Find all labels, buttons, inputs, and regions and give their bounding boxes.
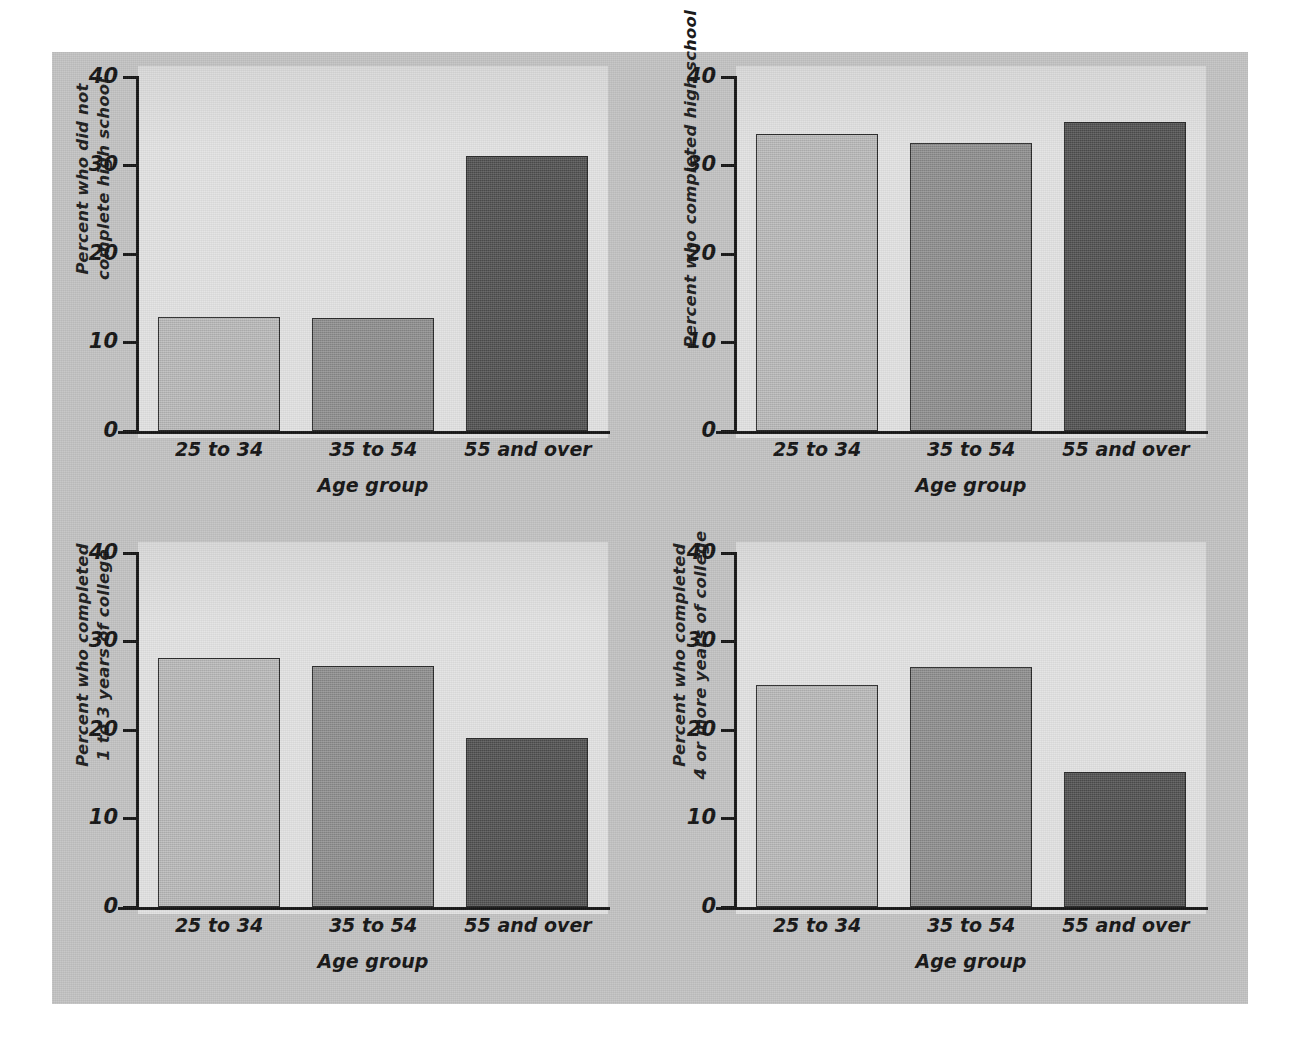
bar-25-to-34[interactable] [756, 134, 878, 431]
chart-grid: Percent who did not complete high school… [52, 52, 1248, 1004]
x-category-label: 25 to 34 [742, 916, 892, 935]
y-tick-mark [721, 164, 734, 167]
y-tick-mark [123, 341, 136, 344]
y-tick-mark [721, 729, 734, 732]
y-tick-mark [721, 552, 734, 555]
y-tick-mark [721, 430, 734, 433]
y-tick-mark [721, 341, 734, 344]
bar-35-to-54[interactable] [910, 143, 1032, 431]
y-tick-label: 0 [701, 896, 716, 917]
bar-fill [911, 668, 1031, 907]
y-tick-mark [123, 729, 136, 732]
bar-25-to-34[interactable] [158, 658, 280, 907]
y-tick-label: 0 [701, 420, 716, 441]
bar-group [734, 76, 1208, 431]
y-tick-label: 30 [89, 630, 118, 651]
y-tick-mark [123, 640, 136, 643]
bar-group [136, 76, 610, 431]
x-category-label: 35 to 54 [298, 440, 448, 459]
x-category-label: 55 and over [448, 916, 608, 935]
y-tick-mark [123, 552, 136, 555]
bar-35-to-54[interactable] [312, 318, 434, 431]
bar-fill [757, 135, 877, 430]
bar-fill [159, 318, 279, 430]
y-tick-mark [123, 430, 136, 433]
y-tick-mark [721, 906, 734, 909]
x-category-label: 55 and over [448, 440, 608, 459]
y-tick-label: 0 [103, 420, 118, 441]
x-axis-category-labels: 25 to 34 35 to 54 55 and over [136, 916, 610, 946]
x-category-label: 25 to 34 [144, 440, 294, 459]
x-axis-category-labels: 25 to 34 35 to 54 55 and over [734, 440, 1208, 470]
y-tick-label: 10 [687, 331, 716, 352]
x-category-label: 55 and over [1046, 916, 1206, 935]
y-tick-label: 30 [687, 630, 716, 651]
y-axis-label-line-1: Percent who completed high school [680, 10, 701, 348]
y-tick-label: 20 [687, 719, 716, 740]
y-tick-label: 0 [103, 896, 118, 917]
bar-55-and-over[interactable] [1064, 772, 1186, 907]
x-category-label: 35 to 54 [896, 916, 1046, 935]
chart-panel-completed-1-to-3-years-college: Percent who completed 1 to 3 years of co… [52, 528, 650, 1004]
y-tick-mark [721, 76, 734, 79]
chart-panel-completed-high-school: Percent who completed high school 0 10 2… [650, 52, 1248, 528]
y-tick-label: 10 [687, 807, 716, 828]
bar-fill [467, 739, 587, 906]
scanned-page: Percent who did not complete high school… [52, 52, 1248, 1004]
x-axis-line [716, 907, 1208, 910]
y-tick-label: 10 [89, 331, 118, 352]
x-axis-line [118, 431, 610, 434]
y-tick-label: 40 [89, 542, 118, 563]
bar-55-and-over[interactable] [1064, 122, 1186, 431]
x-axis-label: Age group [136, 476, 610, 495]
y-tick-mark [123, 76, 136, 79]
bar-fill [467, 157, 587, 430]
bar-35-to-54[interactable] [312, 666, 434, 907]
bar-fill [757, 686, 877, 906]
y-tick-mark [123, 164, 136, 167]
x-axis-label: Age group [734, 476, 1208, 495]
bar-fill [313, 667, 433, 906]
y-tick-label: 20 [687, 243, 716, 264]
chart-panel-completed-4-or-more-years-college: Percent who completed 4 or more years of… [650, 528, 1248, 1004]
bar-fill [313, 319, 433, 430]
bar-fill [159, 659, 279, 906]
bar-group [734, 552, 1208, 907]
bar-25-to-34[interactable] [756, 685, 878, 907]
y-tick-label: 40 [89, 66, 118, 87]
y-axis-label-line-2: 4 or more years of college [690, 531, 711, 780]
y-tick-mark [721, 253, 734, 256]
chart-panel-did-not-complete-high-school: Percent who did not complete high school… [52, 52, 650, 528]
x-category-label: 35 to 54 [298, 916, 448, 935]
y-tick-label: 30 [687, 154, 716, 175]
x-axis-label: Age group [734, 952, 1208, 971]
y-tick-mark [721, 640, 734, 643]
bar-25-to-34[interactable] [158, 317, 280, 431]
x-axis-label: Age group [136, 952, 610, 971]
bar-35-to-54[interactable] [910, 667, 1032, 908]
bar-fill [1065, 773, 1185, 906]
x-category-label: 35 to 54 [896, 440, 1046, 459]
x-category-label: 55 and over [1046, 440, 1206, 459]
y-tick-mark [123, 253, 136, 256]
y-tick-mark [721, 817, 734, 820]
bar-55-and-over[interactable] [466, 738, 588, 907]
x-axis-line [716, 431, 1208, 434]
y-tick-label: 40 [687, 542, 716, 563]
bar-55-and-over[interactable] [466, 156, 588, 431]
bar-fill [1065, 123, 1185, 430]
y-tick-mark [123, 817, 136, 820]
y-tick-label: 10 [89, 807, 118, 828]
bar-fill [911, 144, 1031, 430]
y-tick-mark [123, 906, 136, 909]
y-tick-label: 20 [89, 719, 118, 740]
x-axis-category-labels: 25 to 34 35 to 54 55 and over [734, 916, 1208, 946]
y-tick-label: 20 [89, 243, 118, 264]
x-axis-category-labels: 25 to 34 35 to 54 55 and over [136, 440, 610, 470]
x-category-label: 25 to 34 [742, 440, 892, 459]
x-axis-line [118, 907, 610, 910]
x-category-label: 25 to 34 [144, 916, 294, 935]
bar-group [136, 552, 610, 907]
y-tick-label: 40 [687, 66, 716, 87]
y-tick-label: 30 [89, 154, 118, 175]
